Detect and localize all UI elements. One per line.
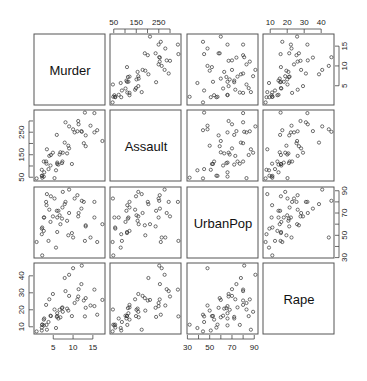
- tick-label-right-urbanpop: 30: [340, 253, 349, 262]
- data-point: [134, 195, 137, 198]
- data-point: [321, 68, 324, 71]
- data-point: [208, 144, 211, 147]
- data-point: [330, 56, 333, 59]
- tick-label-right-urbanpop: 90: [340, 186, 349, 195]
- data-point: [242, 160, 245, 163]
- data-point: [317, 73, 320, 76]
- data-point: [51, 292, 54, 295]
- data-point: [270, 216, 273, 219]
- data-point: [148, 223, 151, 226]
- data-point: [141, 211, 144, 214]
- data-point: [120, 233, 123, 236]
- data-point: [245, 301, 248, 304]
- data-point: [80, 264, 83, 267]
- data-point: [254, 273, 257, 276]
- data-point: [321, 188, 324, 191]
- data-point: [73, 197, 76, 200]
- data-point: [226, 175, 229, 178]
- data-point: [234, 298, 237, 301]
- data-point: [226, 317, 229, 320]
- data-point: [158, 298, 161, 301]
- data-point: [215, 326, 218, 329]
- data-point: [188, 323, 191, 326]
- data-point: [291, 200, 294, 203]
- data-point: [249, 91, 252, 94]
- data-point: [126, 323, 129, 326]
- data-point: [213, 318, 216, 321]
- data-point: [206, 304, 209, 307]
- data-point: [76, 130, 79, 133]
- data-point: [148, 298, 151, 301]
- data-point: [125, 209, 128, 212]
- data-point: [188, 95, 191, 98]
- data-point: [327, 128, 330, 131]
- data-point: [227, 85, 230, 88]
- data-point: [76, 194, 79, 197]
- data-point: [111, 83, 114, 86]
- data-point: [264, 177, 267, 180]
- data-point: [120, 89, 123, 92]
- data-point: [287, 219, 290, 222]
- data-point: [296, 208, 299, 211]
- data-point: [279, 133, 282, 136]
- data-point: [285, 234, 288, 237]
- tick-label-bottom-urbanpop: 70: [228, 343, 237, 352]
- data-point: [43, 171, 46, 174]
- data-point: [226, 312, 229, 315]
- tick-label-top-rape: 30: [300, 18, 309, 27]
- data-point: [304, 121, 307, 124]
- data-point: [89, 236, 92, 239]
- data-point: [177, 53, 180, 56]
- data-point: [235, 283, 238, 286]
- data-point: [45, 148, 48, 151]
- tick-label-right-murder: 15: [340, 41, 349, 50]
- data-point: [206, 47, 209, 50]
- data-point: [306, 59, 309, 62]
- data-point: [82, 142, 85, 145]
- data-point: [236, 75, 239, 78]
- data-point: [282, 216, 285, 219]
- data-point: [271, 204, 274, 207]
- data-point: [163, 273, 166, 276]
- data-point: [41, 254, 44, 257]
- data-point: [101, 139, 104, 142]
- data-point: [111, 330, 114, 333]
- data-point: [148, 35, 151, 38]
- data-point: [217, 134, 220, 137]
- data-point: [210, 66, 213, 69]
- data-point: [226, 171, 229, 174]
- tick-label-bottom-murder: 5: [51, 343, 56, 352]
- data-point: [203, 168, 206, 171]
- data-point: [63, 141, 66, 144]
- diag-label-assault: Assault: [125, 139, 168, 154]
- data-point: [120, 239, 123, 242]
- data-point: [77, 123, 80, 126]
- data-point: [64, 290, 67, 293]
- data-point: [119, 246, 122, 249]
- data-point: [296, 35, 299, 38]
- panel-frame: [263, 187, 334, 258]
- data-point: [101, 298, 104, 301]
- data-point: [245, 63, 248, 66]
- tick-label-left-assault: 150: [17, 148, 26, 162]
- data-point: [266, 193, 269, 196]
- data-point: [119, 81, 122, 84]
- data-point: [154, 306, 157, 309]
- data-point: [264, 101, 267, 104]
- data-point: [146, 54, 149, 57]
- data-point: [234, 154, 237, 157]
- data-point: [304, 72, 307, 75]
- diag-label-urbanpop: UrbanPop: [194, 216, 253, 231]
- data-point: [264, 240, 267, 243]
- data-point: [93, 200, 96, 203]
- data-point: [176, 288, 179, 291]
- data-point: [60, 217, 63, 220]
- panel-frame: [187, 34, 258, 105]
- data-point: [279, 195, 282, 198]
- tick-label-top-assault: 150: [130, 18, 144, 27]
- data-point: [301, 151, 304, 154]
- data-point: [296, 60, 299, 63]
- data-point: [242, 91, 245, 94]
- data-point: [128, 206, 131, 209]
- data-point: [201, 330, 204, 333]
